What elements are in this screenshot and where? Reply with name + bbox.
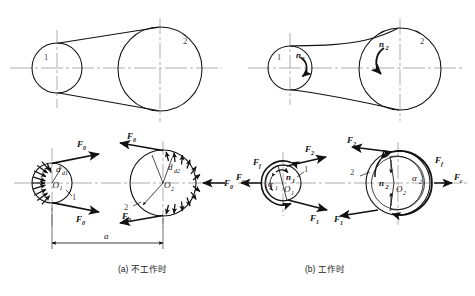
- n1-subscript: 1: [302, 56, 305, 62]
- panel-a-force-diagram: d d1 O 1 1 F 0 F 0 d d2: [14, 131, 233, 249]
- panel-b-f1-small: [288, 200, 327, 210]
- panel-b-o2-label: O: [396, 184, 403, 194]
- belt-drive-force-figure: 1 2 n 1 n 2 1 2: [0, 0, 475, 296]
- panel-b-f1-large: [340, 210, 378, 216]
- ff-sub-small: f: [259, 163, 262, 169]
- n2-label: n: [379, 39, 384, 49]
- pulley-2-number: 2: [183, 36, 187, 46]
- panel-b-f2-large: [352, 147, 392, 152]
- dd2-label: d: [168, 162, 173, 172]
- f0-label-ur: F: [126, 131, 133, 141]
- f2-sub-large: 2: [352, 141, 356, 147]
- caption-panel-b: (b) 工作时: [305, 262, 345, 274]
- f2-label-small: F: [304, 144, 311, 154]
- fc-sub-small: c: [242, 178, 245, 184]
- panel-b-force-diagram: α 1 n 1 O 1 1 F 2 F 1 F f F c n 2 O 2 α: [235, 135, 468, 227]
- panel-a-o1-subscript: 1: [60, 185, 63, 191]
- n2-rotation-arrow: [376, 48, 384, 74]
- f1-label-small: F: [309, 213, 316, 223]
- alpha2-label: α: [412, 173, 417, 183]
- fc-sub-large: c: [460, 178, 463, 184]
- f2-sub-small: 2: [310, 150, 314, 156]
- panel-a-f0-upper-right: [120, 143, 163, 151]
- f1-sub-large: 1: [340, 220, 343, 226]
- panel-b-n2-arrow: [375, 159, 381, 177]
- f0-label-ul: F: [76, 139, 83, 149]
- belt-tight-side: [291, 90, 400, 110]
- panel-a-radius-arrow: [143, 183, 163, 205]
- ff-label-small: F: [252, 157, 259, 167]
- panel-a-f0-lower-left: [52, 203, 99, 212]
- panel-a-o2-label: O: [164, 180, 171, 190]
- n2-subscript: 2: [385, 45, 389, 51]
- panel-b-n1-label: n: [286, 172, 291, 182]
- panel-b-o2-subscript: 2: [403, 190, 406, 196]
- fc-label-small: F: [235, 172, 242, 182]
- f0-sub-ul: 0: [83, 145, 86, 151]
- dd2-subscript: d2: [174, 168, 180, 174]
- pulley-1-number-b: 1: [277, 52, 281, 62]
- f1-sub-small: 1: [316, 219, 319, 225]
- pulley-1-number: 1: [44, 52, 48, 62]
- alpha1-label: α: [268, 179, 273, 189]
- f2-label-large: F: [346, 135, 353, 145]
- panel-a-dd2-leader-2: [152, 155, 163, 183]
- center-distance-label: a: [104, 231, 109, 241]
- panel-a-o2-subscript: 2: [171, 186, 174, 192]
- top-left-belt-drive: 1 2: [10, 18, 222, 122]
- f0-sub-ur: 0: [133, 137, 136, 143]
- caption-panel-a: (a) 不工作时: [118, 262, 167, 274]
- belt-lower-strand: [58, 93, 160, 111]
- f0-label-ll: F: [75, 214, 82, 224]
- dd1-subscript: d1: [62, 170, 68, 176]
- panel-b-n2-subscript: 2: [385, 184, 389, 190]
- panel-b-pulley-1-number: 1: [304, 164, 308, 174]
- f1-label-large: F: [333, 214, 340, 224]
- pulley-2-number-b: 2: [420, 36, 424, 46]
- panel-b-pulley-2-number: 2: [350, 167, 354, 177]
- panel-a-pulley-1-number: 1: [72, 192, 76, 202]
- f0-sub-ll: 0: [82, 220, 85, 226]
- panel-b-n2-label: n: [379, 178, 384, 188]
- dd1-label: d: [56, 164, 61, 174]
- panel-b-pulley2-leader: [360, 172, 370, 176]
- n1-label: n: [296, 50, 301, 60]
- f0-label-right: F: [223, 178, 230, 188]
- ff-label-large: F: [434, 155, 441, 165]
- panel-b-o1-label: O: [284, 184, 291, 194]
- panel-b-o1-subscript: 1: [291, 190, 294, 196]
- ff-sub-large: f: [441, 161, 444, 167]
- fc-label-large: F: [453, 172, 460, 182]
- panel-a-o1-label: O: [53, 180, 60, 190]
- panel-a-f0-upper-left: [52, 154, 99, 163]
- panel-b-n1-subscript: 1: [292, 178, 295, 184]
- f0-sub-lr: 0: [128, 217, 131, 223]
- alpha1-subscript: 1: [275, 185, 278, 191]
- f0-label-lr: F: [121, 211, 128, 221]
- top-right-belt-drive: n 1 n 2 1 2: [248, 19, 462, 121]
- f0-sub-right: 0: [230, 184, 233, 190]
- belt-upper-strand: [58, 27, 160, 43]
- alpha2-subscript: 2: [419, 179, 422, 185]
